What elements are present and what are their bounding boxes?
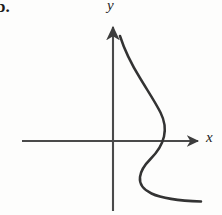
x-axis-label: x	[206, 129, 213, 146]
y-axis-label: y	[107, 0, 114, 14]
curve-path	[120, 36, 201, 202]
figure-panel: b. y x	[0, 0, 222, 215]
graph-canvas	[0, 0, 222, 215]
